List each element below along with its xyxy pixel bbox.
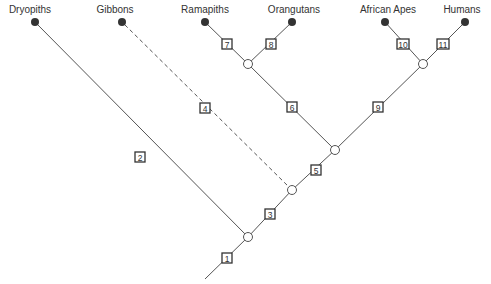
marker-number: 6 xyxy=(290,103,295,113)
marker-number: 3 xyxy=(268,210,273,220)
african-apes-leaf-dot xyxy=(381,18,389,26)
phylogenetic-tree: 1234567891011 xyxy=(0,0,491,284)
marker-number: 11 xyxy=(439,40,448,50)
ancestor-node xyxy=(331,146,340,155)
ancestor-node xyxy=(419,60,428,69)
ancestor-node xyxy=(244,233,253,242)
gibbons-leaf-dot xyxy=(118,18,126,26)
marker-number: 5 xyxy=(314,166,319,176)
ramapiths-leaf-dot xyxy=(201,18,209,26)
marker-number: 10 xyxy=(398,40,408,50)
marker-number: 2 xyxy=(138,153,143,163)
branch xyxy=(35,22,248,237)
marker-number: 4 xyxy=(203,104,208,114)
ancestor-node xyxy=(244,60,253,69)
marker-number: 8 xyxy=(269,40,274,50)
orangutans-leaf-dot xyxy=(288,18,296,26)
dryopiths-leaf-dot xyxy=(31,18,39,26)
marker-number: 1 xyxy=(225,254,230,264)
ancestor-node xyxy=(288,186,297,195)
marker-number: 9 xyxy=(376,103,381,113)
humans-leaf-dot xyxy=(461,18,469,26)
marker-number: 7 xyxy=(225,40,230,50)
